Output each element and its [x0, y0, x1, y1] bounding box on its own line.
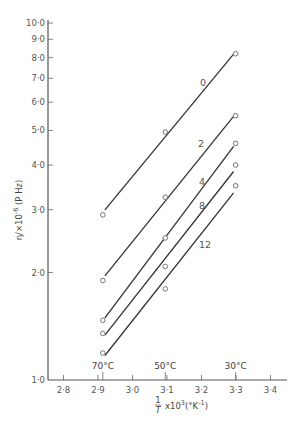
svg-text:T: T [155, 405, 161, 415]
x-tick-label: 3·4 [264, 385, 278, 395]
y-tick-label: 10·0 [26, 18, 45, 28]
data-point-marker [101, 331, 106, 336]
temperature-label: 50°C [154, 361, 176, 371]
viscosity-arrhenius-chart: 1·02·03·04·05·06·07·08·09·010·0 2·82·93·… [0, 0, 304, 432]
fit-line [105, 146, 234, 317]
data-point-marker [101, 278, 106, 283]
y-tick-label: 3·0 [31, 205, 45, 215]
data-point-marker [233, 183, 238, 188]
series-label: 8 [199, 200, 205, 211]
data-point-marker [163, 236, 168, 241]
svg-text:η/×10-6 (P Hz): η/×10-6 (P Hz) [12, 180, 24, 241]
y-axis-ticks: 1·02·03·04·05·06·07·08·09·010·0 [26, 18, 53, 385]
y-tick-label: 6·0 [31, 97, 45, 107]
series-2: 2 [101, 113, 238, 282]
x-tick-label: 3·0 [126, 385, 140, 395]
series-label: 0 [200, 77, 206, 88]
data-point-marker [101, 318, 106, 323]
data-series: 024812 [101, 51, 238, 355]
series-8: 8 [101, 163, 238, 336]
series-label: 2 [198, 138, 204, 149]
y-tick-label: 4·0 [31, 160, 45, 170]
y-tick-label: 2·0 [31, 268, 45, 278]
series-12: 12 [101, 183, 238, 355]
data-point-marker [101, 213, 106, 218]
temperature-label: 70°C [92, 361, 114, 371]
x-tick-label: 3·2 [195, 385, 209, 395]
y-tick-label: 5·0 [31, 125, 45, 135]
svg-text:1: 1 [155, 395, 160, 405]
data-point-marker [233, 141, 238, 146]
data-point-marker [163, 130, 168, 135]
data-point-marker [233, 51, 238, 56]
fit-line [105, 54, 234, 210]
data-point-marker [101, 351, 106, 356]
x-axis-title: 1 T x103(°K-1) [155, 395, 208, 415]
fit-line [105, 193, 234, 356]
x-axis-ticks: 2·82·93·03·13·23·33·4 [57, 375, 278, 395]
data-point-marker [233, 163, 238, 168]
x-tick-label: 3·1 [160, 385, 174, 395]
series-label: 12 [199, 239, 211, 250]
y-tick-label: 1·0 [31, 375, 45, 385]
series-4: 4 [101, 141, 238, 322]
data-point-marker [163, 264, 168, 269]
data-point-marker [233, 113, 238, 118]
data-point-marker [163, 287, 168, 292]
y-axis-title: η/×10-6 (P Hz) [12, 180, 24, 241]
temperature-annotations: 70°C50°C30°C [92, 361, 247, 380]
y-tick-label: 7·0 [31, 73, 45, 83]
y-tick-label: 8·0 [31, 53, 45, 63]
temperature-label: 30°C [225, 361, 247, 371]
data-point-marker [163, 195, 168, 200]
svg-text:x103(°K-1): x103(°K-1) [165, 399, 208, 411]
x-tick-label: 2·8 [57, 385, 71, 395]
series-label: 4 [199, 176, 205, 187]
x-tick-label: 3·3 [229, 385, 243, 395]
y-tick-label: 9·0 [31, 34, 45, 44]
x-tick-label: 2·9 [91, 385, 105, 395]
